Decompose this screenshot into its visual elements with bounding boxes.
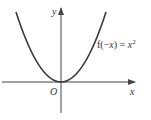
x-axis-label: x <box>129 86 135 97</box>
origin-label: O <box>50 86 57 97</box>
function-graph: y x O f(−x) = x2 <box>0 0 151 120</box>
function-label: f(−x) = x2 <box>97 38 136 51</box>
y-axis-label: y <box>51 6 57 17</box>
